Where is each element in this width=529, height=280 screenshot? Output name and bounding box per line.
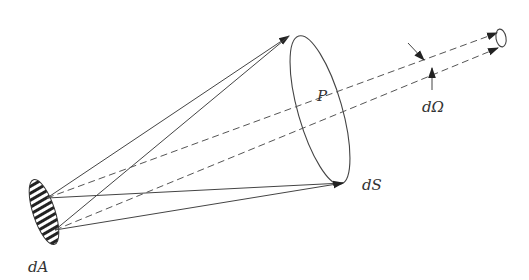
solid-angle-diagram: dA P dS dΩ xyxy=(0,0,529,280)
surface-element-ellipse xyxy=(278,30,363,190)
distant-cone-ellipse xyxy=(495,28,508,47)
solid-angle-arrow-top-icon xyxy=(408,43,424,60)
dashed-rays xyxy=(47,33,498,230)
solid-angle-markers xyxy=(408,43,432,90)
label-P: P xyxy=(316,87,328,105)
source-area-disc xyxy=(23,176,65,247)
label-dOmega: dΩ xyxy=(422,98,444,116)
solid-rays xyxy=(47,36,343,230)
label-dS: dS xyxy=(362,176,382,194)
label-dA: dA xyxy=(28,258,49,276)
